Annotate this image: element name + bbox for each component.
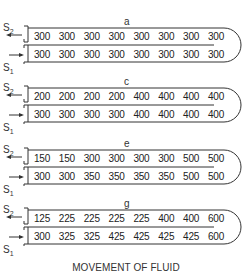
concentration-value: 425 <box>158 231 174 242</box>
bottom-row-values: 300300300300400400400400 <box>34 109 224 120</box>
concentration-value: 300 <box>133 153 149 164</box>
s1-label: S1 <box>3 184 14 197</box>
concentration-value: 500 <box>208 171 224 182</box>
concentration-value: 300 <box>158 31 174 42</box>
s1-label: S1 <box>3 122 14 135</box>
s1-label: S1 <box>3 62 14 75</box>
concentration-value: 400 <box>133 109 149 120</box>
concentration-value: 300 <box>109 49 125 60</box>
panel-label: g <box>124 198 130 209</box>
concentration-value: 350 <box>109 171 125 182</box>
concentration-value: 400 <box>158 109 174 120</box>
concentration-value: 200 <box>34 91 50 102</box>
tube-panel-g: g S2 S1 125225225225225400400600 3003253… <box>0 200 252 260</box>
concentration-value: 225 <box>84 213 100 224</box>
concentration-value: 400 <box>208 109 224 120</box>
s2-label: S2 <box>3 82 14 95</box>
concentration-value: 425 <box>109 231 125 242</box>
concentration-value: 500 <box>183 153 199 164</box>
concentration-value: 425 <box>133 231 149 242</box>
concentration-value: 325 <box>59 231 75 242</box>
concentration-value: 300 <box>158 49 174 60</box>
top-row-values: 125225225225225400400600 <box>34 213 224 224</box>
concentration-value: 300 <box>158 153 174 164</box>
bottom-row-values: 300300350350350350500500 <box>34 171 224 182</box>
concentration-value: 300 <box>34 109 50 120</box>
inflow-arrow-icon <box>9 235 24 239</box>
concentration-value: 350 <box>158 171 174 182</box>
concentration-value: 200 <box>84 91 100 102</box>
figure-caption: MOVEMENT OF FLUID <box>0 262 252 273</box>
concentration-value: 150 <box>34 153 50 164</box>
concentration-value: 400 <box>158 213 174 224</box>
concentration-value: 350 <box>133 171 149 182</box>
concentration-value: 300 <box>59 31 75 42</box>
tube-panel-a: a S2 S1 300300300300300300300300 3003003… <box>0 18 252 78</box>
s2-label: S2 <box>3 204 14 217</box>
s1-label: S1 <box>3 244 14 257</box>
tube-panel-e: e S2 S1 150150300300300300500500 3003003… <box>0 140 252 200</box>
concentration-value: 400 <box>183 91 199 102</box>
concentration-value: 400 <box>158 91 174 102</box>
concentration-value: 400 <box>183 213 199 224</box>
tube-panel-c: c S2 S1 200200200200400400400400 3003003… <box>0 78 252 138</box>
inflow-arrow-icon <box>9 53 24 57</box>
concentration-value: 300 <box>84 31 100 42</box>
concentration-value: 300 <box>34 31 50 42</box>
top-row-values: 300300300300300300300300 <box>34 31 224 42</box>
concentration-value: 125 <box>34 213 50 224</box>
top-row-values: 200200200200400400400400 <box>34 91 224 102</box>
hairpin-tube-outline <box>0 140 252 200</box>
top-row-values: 150150300300300300500500 <box>34 153 224 164</box>
concentration-value: 300 <box>34 231 50 242</box>
concentration-value: 500 <box>183 171 199 182</box>
inflow-arrow-icon <box>9 175 24 179</box>
concentration-value: 500 <box>208 153 224 164</box>
concentration-value: 300 <box>59 109 75 120</box>
panel-label: c <box>124 76 129 87</box>
s2-label: S2 <box>3 22 14 35</box>
panel-label: a <box>124 16 130 27</box>
concentration-value: 300 <box>133 31 149 42</box>
concentration-value: 150 <box>59 153 75 164</box>
concentration-value: 600 <box>208 231 224 242</box>
concentration-value: 225 <box>59 213 75 224</box>
concentration-value: 300 <box>208 49 224 60</box>
concentration-value: 225 <box>109 213 125 224</box>
concentration-value: 300 <box>133 49 149 60</box>
concentration-value: 300 <box>84 153 100 164</box>
concentration-value: 350 <box>84 171 100 182</box>
concentration-value: 300 <box>109 109 125 120</box>
concentration-value: 300 <box>183 31 199 42</box>
concentration-value: 300 <box>208 31 224 42</box>
concentration-value: 600 <box>208 213 224 224</box>
bottom-row-values: 300300300300300300300300 <box>34 49 224 60</box>
concentration-value: 400 <box>208 91 224 102</box>
concentration-value: 300 <box>183 49 199 60</box>
concentration-value: 300 <box>34 49 50 60</box>
concentration-value: 400 <box>183 109 199 120</box>
concentration-value: 300 <box>109 31 125 42</box>
panel-label: e <box>124 138 130 149</box>
hairpin-tube-outline <box>0 200 252 260</box>
concentration-value: 200 <box>109 91 125 102</box>
inflow-arrow-icon <box>9 113 24 117</box>
hairpin-tube-outline <box>0 18 252 78</box>
concentration-value: 425 <box>183 231 199 242</box>
s2-label: S2 <box>3 144 14 157</box>
hairpin-tube-outline <box>0 78 252 138</box>
concentration-value: 400 <box>133 91 149 102</box>
concentration-value: 300 <box>59 49 75 60</box>
concentration-value: 300 <box>84 109 100 120</box>
concentration-value: 300 <box>34 171 50 182</box>
concentration-value: 225 <box>133 213 149 224</box>
concentration-value: 300 <box>84 49 100 60</box>
concentration-value: 300 <box>109 153 125 164</box>
concentration-value: 300 <box>59 171 75 182</box>
concentration-value: 325 <box>84 231 100 242</box>
bottom-row-values: 300325325425425425425600 <box>34 231 224 242</box>
concentration-value: 200 <box>59 91 75 102</box>
